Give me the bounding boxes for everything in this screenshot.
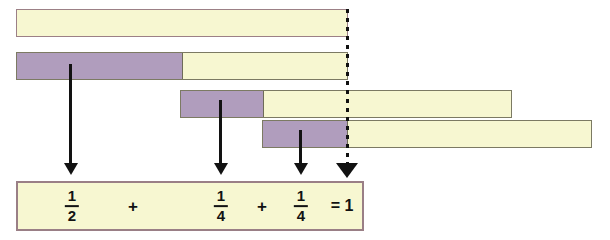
bold-total-arrowhead [336,163,358,178]
operator-plus-2: + [257,198,267,215]
term-one-half: 1 2 [65,188,79,224]
arrow-quarter-b [299,130,302,164]
term-one-quarter-1-numerator: 1 [214,188,228,207]
equation-summary-box: 1 2 + 1 4 + 1 4 = 1 [16,181,364,231]
term-one-quarter-1: 1 4 [214,188,228,224]
arrow-half [69,64,72,164]
fraction-bar-diagram: 1 2 + 1 4 + 1 4 = 1 [0,0,610,240]
operator-plus-1: + [128,198,138,215]
term-one-quarter-1-denominator: 4 [214,207,228,224]
bar-whole-segment-cream [17,10,347,36]
bar-half-segment-cream [183,53,347,79]
bar-half [16,52,348,80]
term-result: = 1 [331,198,354,214]
bar-quarter-b-segment-purple [263,121,348,147]
bar-whole [16,9,348,37]
term-one-quarter-2-numerator: 1 [294,188,308,207]
bar-quarter-a-segment-purple [181,91,264,117]
arrow-quarter-a [219,100,222,164]
bar-half-segment-purple [17,53,183,79]
bar-quarter-b [262,120,592,148]
term-one-half-numerator: 1 [65,188,79,207]
term-one-quarter-2-denominator: 4 [294,207,308,224]
unit-boundary-guide-line [346,9,349,169]
term-one-quarter-2: 1 4 [294,188,308,224]
term-one-half-denominator: 2 [65,207,79,224]
bar-quarter-b-segment-cream [348,121,591,147]
bar-quarter-a-segment-cream [264,91,511,117]
